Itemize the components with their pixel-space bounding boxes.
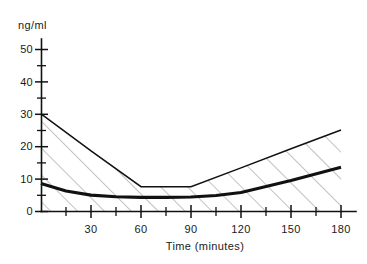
x-tick-label-150: 150 <box>281 223 300 235</box>
x-tick-label-60: 60 <box>135 223 148 235</box>
x-tick-label-120: 120 <box>231 223 250 235</box>
y-tick-label-50: 50 <box>20 43 33 55</box>
x-tick-label-90: 90 <box>185 223 198 235</box>
y-tick-label-10: 10 <box>20 173 33 185</box>
y-tick-label-0: 0 <box>27 205 33 217</box>
y-axis-title: ng/ml <box>18 19 47 31</box>
y-tick-label-20: 20 <box>20 140 33 152</box>
x-axis-title: Time (minutes) <box>166 240 245 252</box>
y-tick-label-40: 40 <box>20 76 33 88</box>
chart-figure: 0 10 20 30 40 50 30 60 90 120 150 180 ng… <box>0 0 367 264</box>
x-tick-label-30: 30 <box>85 223 98 235</box>
chart-svg: 0 10 20 30 40 50 30 60 90 120 150 180 ng… <box>0 0 367 264</box>
x-tick-label-180: 180 <box>331 223 350 235</box>
y-tick-label-30: 30 <box>20 108 33 120</box>
